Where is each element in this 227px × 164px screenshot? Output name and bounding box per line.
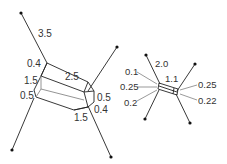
label-body-length: 2.5 (65, 71, 79, 82)
label-right-side: 0.5 (97, 92, 111, 103)
crystal-diagram: 3.5 0.4 2.5 1.5 0.5 0.5 0.4 1.5 2.0 1.1 … (0, 0, 227, 164)
label-right-lower: 0.4 (94, 104, 108, 115)
axis-line-bottom-right (176, 94, 190, 123)
label-top-cap: 0.4 (27, 58, 41, 69)
endpoint-dot (109, 155, 112, 158)
label-right-bottom: 0.22 (198, 95, 217, 106)
label-right-top: 0.25 (198, 79, 217, 90)
endpoint-dot (144, 53, 147, 56)
small-crystal-labels: 2.0 1.1 0.1 0.25 0.2 0.25 0.22 (120, 58, 217, 108)
label-left-bottom: 0.2 (124, 97, 137, 108)
label-left-lower: 0.5 (20, 90, 34, 101)
endpoint-dot (10, 148, 13, 151)
label-body-length: 1.1 (165, 73, 178, 84)
endpoint-dot (193, 62, 196, 65)
axis-line-bottom-left (145, 90, 159, 119)
label-axis-length: 3.5 (38, 28, 52, 39)
label-left-mid: 0.25 (120, 81, 139, 92)
endpoint-dot (143, 117, 146, 120)
label-left-side: 1.5 (24, 75, 38, 86)
large-crystal-labels: 3.5 0.4 2.5 1.5 0.5 0.5 0.4 1.5 (20, 28, 111, 123)
endpoint-dot (19, 11, 22, 14)
endpoint-dot (115, 45, 118, 48)
endpoint-dot (188, 121, 191, 124)
label-left-top: 0.1 (125, 66, 138, 77)
axis-line-bottom-left (12, 98, 34, 150)
label-bottom-side: 1.5 (74, 112, 88, 123)
axis-line-top-right (88, 47, 117, 91)
label-axis-length: 2.0 (155, 58, 168, 69)
axis-line-top-right (177, 64, 195, 91)
